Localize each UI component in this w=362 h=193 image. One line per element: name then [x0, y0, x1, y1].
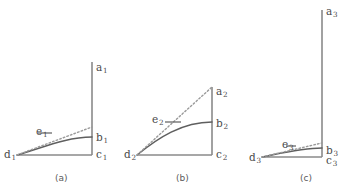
label-a2: a2	[216, 86, 227, 97]
label-d3: d3	[249, 152, 261, 163]
label-e1: e1	[36, 126, 47, 137]
label-d2: d2	[124, 149, 136, 160]
panel-b-tangent	[137, 87, 212, 155]
panel-b-curve	[137, 122, 212, 155]
label-b1: b1	[96, 132, 108, 143]
figure-drawing-canvas	[0, 0, 362, 193]
panel-c-caption: (c)	[300, 174, 312, 183]
panel-b-caption: (b)	[176, 174, 189, 183]
panel-a-tangent	[17, 127, 92, 155]
label-e2: e2	[152, 114, 163, 125]
label-c2: c2	[216, 149, 227, 160]
panel-a-geometry	[17, 62, 92, 155]
label-a1: a1	[96, 62, 107, 73]
label-e3: e3	[282, 139, 293, 150]
figure-container: a1 b1 c1 d1 e1 a2 b2 c2 d2 e2 a3 b3 c3 d…	[0, 0, 362, 193]
panel-a-caption: (a)	[55, 174, 68, 183]
label-c3: c3	[326, 155, 337, 166]
label-c1: c1	[96, 149, 107, 160]
panel-c-geometry	[262, 10, 322, 157]
panel-a-curve	[17, 137, 92, 155]
label-b2: b2	[216, 118, 228, 129]
label-d1: d1	[4, 149, 16, 160]
panel-b-geometry	[137, 87, 212, 155]
label-a3: a3	[326, 6, 337, 17]
